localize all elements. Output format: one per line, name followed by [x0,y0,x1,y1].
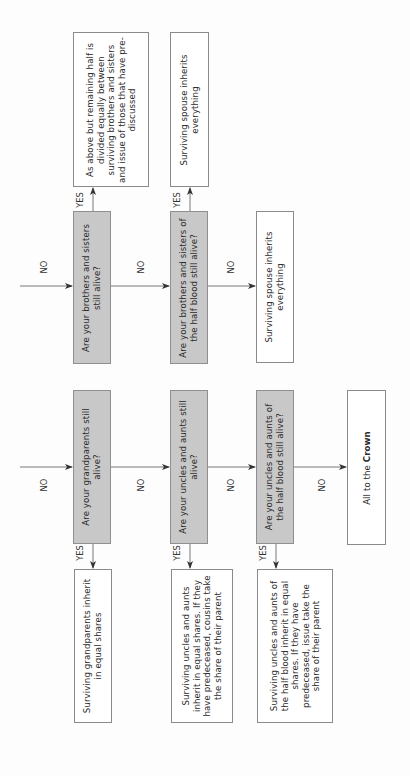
label-no-4: NO [39,479,49,492]
label-no-1: NO [39,261,49,274]
label-no-5: NO [136,479,146,492]
label-no-3: NO [226,261,236,274]
outcome-crown-text: All to the Crown [361,403,372,533]
outcome-half-blood-uncles-box: Surviving uncles and aunts of the half b… [257,569,333,723]
label-yes-2: YES [172,192,182,208]
outcome-uncles-aunts-text: Surviving uncles and aunts inherit in eq… [181,572,223,720]
label-yes-3: YES [75,545,85,561]
question-grandparents-box: Are your grandparents still alive? [73,390,111,544]
outcome-half-blood-uncles-text: Surviving uncles and aunts of the half b… [269,579,322,714]
label-yes-4: YES [172,545,182,561]
outcome-spouse-top-text: Surviving spouse inherits everything [179,50,200,170]
question-uncles-aunts-text: Are your uncles and aunts still alive? [178,397,199,537]
label-yes-1: YES [75,192,85,208]
outcome-siblings-text: As above but remaining half is divided e… [85,35,138,185]
label-yes-5: YES [258,545,268,561]
question-brothers-sisters-box: Are your brothers and sisters still aliv… [73,211,111,364]
label-no-7: NO [317,479,327,492]
question-uncles-aunts-box: Are your uncles and aunts still alive? [170,390,208,544]
label-no-2: NO [136,261,146,274]
outcome-uncles-aunts-box: Surviving uncles and aunts inherit in eq… [171,569,233,723]
outcome-spouse-box: Surviving spouse inherits everything [256,211,294,363]
outcome-grandparents-box: Surviving grandparents inherit in equal … [74,569,112,723]
question-half-blood-uncles-text: Are your uncles and aunts of the half bl… [264,397,285,537]
question-half-blood-siblings-text: Are your brothers and sisters of the hal… [178,218,199,358]
question-half-blood-siblings-box: Are your brothers and sisters of the hal… [170,211,208,364]
question-half-blood-uncles-box: Are your uncles and aunts of the half bl… [256,390,294,544]
outcome-siblings-box: As above but remaining half is divided e… [73,32,149,187]
outcome-grandparents-text: Surviving grandparents inherit in equal … [82,576,103,716]
question-grandparents-text: Are your grandparents still alive? [81,397,102,537]
outcome-spouse-text: Surviving spouse inherits everything [264,227,285,347]
outcome-crown-box: All to the Crown [347,390,386,545]
outcome-spouse-top-box: Surviving spouse inherits everything [170,32,209,187]
label-no-6: NO [226,479,236,492]
question-brothers-sisters-text: Are your brothers and sisters still aliv… [81,218,102,358]
